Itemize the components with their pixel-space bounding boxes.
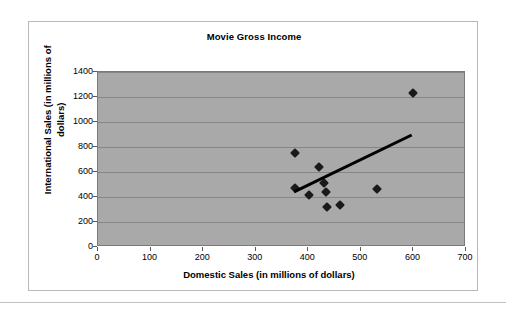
x-tick-mark — [360, 247, 361, 251]
x-tick-mark — [412, 247, 413, 251]
x-tick-label: 300 — [235, 253, 275, 262]
x-tick-label: 100 — [130, 253, 170, 262]
x-axis-title: Domestic Sales (in millions of dollars) — [69, 269, 469, 280]
bottom-divider — [0, 302, 506, 303]
y-axis-tick-marks — [29, 71, 97, 246]
x-tick-mark — [202, 247, 203, 251]
scatter-chart: Movie Gross Income International Sales (… — [29, 22, 479, 292]
x-tick-label: 600 — [392, 253, 432, 262]
x-tick-mark — [97, 247, 98, 251]
x-tick-label: 0 — [77, 253, 117, 262]
page-frame: Movie Gross Income International Sales (… — [28, 21, 478, 291]
x-axis-tick-labels: 0100200300400500600700 — [97, 247, 465, 267]
chart-title: Movie Gross Income — [29, 31, 479, 42]
x-tick-mark — [465, 247, 466, 251]
x-tick-label: 200 — [182, 253, 222, 262]
x-tick-mark — [255, 247, 256, 251]
x-tick-mark — [307, 247, 308, 251]
x-tick-label: 500 — [340, 253, 380, 262]
trendline — [98, 72, 464, 245]
x-tick-mark — [150, 247, 151, 251]
trendline-segment — [294, 135, 412, 192]
plot-area — [97, 71, 465, 246]
x-tick-label: 700 — [445, 253, 485, 262]
x-tick-label: 400 — [287, 253, 327, 262]
